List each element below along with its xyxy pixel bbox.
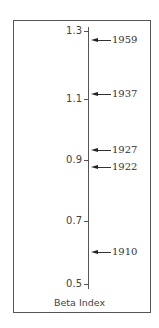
arrow-shaft bbox=[98, 150, 111, 151]
year-label: 1937 bbox=[112, 89, 137, 99]
year-label: 1910 bbox=[112, 247, 137, 257]
arrow-left-icon bbox=[91, 38, 98, 42]
year-marker: 1959 bbox=[91, 35, 137, 45]
year-label: 1927 bbox=[112, 145, 137, 155]
year-marker: 1927 bbox=[91, 145, 137, 155]
tick-label: 0.9 bbox=[66, 155, 82, 165]
tick-label: 1.3 bbox=[66, 26, 82, 36]
year-marker: 1910 bbox=[91, 247, 137, 257]
tick-label: 0.7 bbox=[66, 216, 82, 226]
axis-tick bbox=[84, 99, 88, 100]
axis-title: Beta Index bbox=[0, 297, 159, 308]
arrow-shaft bbox=[98, 40, 111, 41]
arrow-shaft bbox=[98, 167, 111, 168]
year-marker: 1922 bbox=[91, 162, 137, 172]
tick-label: 1.1 bbox=[66, 94, 82, 104]
year-label: 1922 bbox=[112, 162, 137, 172]
arrow-left-icon bbox=[91, 148, 98, 152]
tick-label: 0.5 bbox=[66, 279, 82, 289]
arrow-left-icon bbox=[91, 250, 98, 254]
year-label: 1959 bbox=[112, 35, 137, 45]
beta-index-axis bbox=[88, 27, 89, 289]
year-marker: 1937 bbox=[91, 89, 137, 99]
arrow-shaft bbox=[98, 94, 111, 95]
axis-tick bbox=[84, 31, 88, 32]
arrow-left-icon bbox=[91, 92, 98, 96]
axis-tick bbox=[84, 160, 88, 161]
axis-tick bbox=[84, 221, 88, 222]
axis-tick bbox=[84, 284, 88, 285]
arrow-shaft bbox=[98, 252, 111, 253]
arrow-left-icon bbox=[91, 165, 98, 169]
